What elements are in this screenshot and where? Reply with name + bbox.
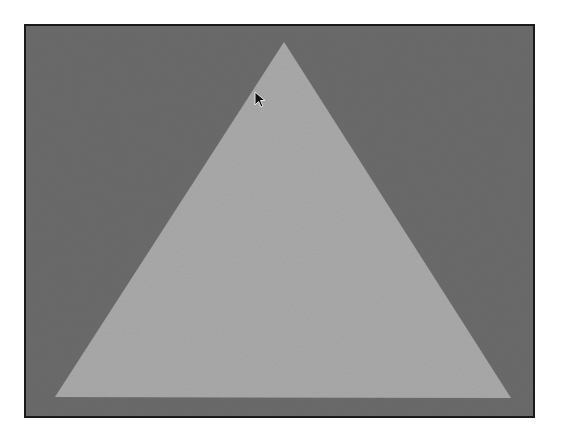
arrow-pointer-icon xyxy=(254,91,266,109)
drawing-canvas[interactable] xyxy=(0,0,562,436)
